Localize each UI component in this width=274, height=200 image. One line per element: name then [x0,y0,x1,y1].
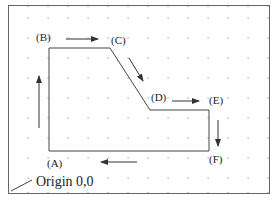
grid-dot [268,158,269,159]
arrow-down-c-to-d-icon [129,58,143,81]
grid-dot [68,58,69,59]
point-label-a: (A) [47,157,63,170]
grid-dot [188,18,189,19]
grid-dot [28,158,29,159]
grid-dot [208,58,209,59]
grid-dot [148,78,149,79]
grid-dot [68,118,69,119]
grid-dot [108,178,109,179]
grid-dot [268,138,269,139]
grid-dot [268,118,269,119]
grid-dot [228,58,229,59]
grid-dot [188,78,189,79]
grid-dot [188,138,189,139]
grid-dot [228,18,229,19]
grid-dot [248,138,249,139]
grid-dot [248,58,249,59]
grid-dot [188,38,189,39]
grid-dot [268,18,269,19]
grid-dot [168,138,169,139]
grid-dot [188,158,189,159]
grid-dot [208,178,209,179]
grid-dot [228,78,229,79]
grid-dot [28,38,29,39]
grid-dot [228,138,229,139]
grid-dot [208,18,209,19]
grid-dot [148,118,149,119]
grid-dot [268,38,269,39]
grid-dot [108,118,109,119]
grid-dot [268,78,269,79]
grid-dot [208,38,209,39]
grid-dot [68,98,69,99]
grid-dot [28,78,29,79]
grid-dot [148,18,149,19]
grid-dot [28,138,29,139]
grid-dot [128,158,129,159]
grid-dot [248,78,249,79]
origin-leader-line [11,180,32,191]
toolpath-outline [49,48,209,151]
grid-dot [108,58,109,59]
grid-dot [148,38,149,39]
grid-dot [128,58,129,59]
grid-dot [148,178,149,179]
grid-dot [108,78,109,79]
grid-dot [248,98,249,99]
toolpath-diagram: (A)(B)(C)(D)(E)(F) Origin 0,0 [0,0,274,200]
grid-dot [108,98,109,99]
point-label-f: (F) [209,153,223,166]
grid-dot [108,138,109,139]
grid-dot [148,98,149,99]
grid-dot [168,158,169,159]
grid-dot [68,158,69,159]
grid-dot [88,18,89,19]
grid-dot [28,118,29,119]
grid-dot [248,38,249,39]
grid-dot [188,118,189,119]
grid-dot [108,158,109,159]
grid-dot [228,178,229,179]
grid-dot [128,138,129,139]
grid-dot [248,178,249,179]
grid-dot [248,18,249,19]
grid-dot [188,178,189,179]
grid-dot [248,158,249,159]
grid-dot [108,38,109,39]
grid-dot [168,98,169,99]
point-label-d: (D) [151,91,167,104]
grid-dot [188,98,189,99]
grid-dot [128,98,129,99]
grid-dot [28,18,29,19]
grid-dot [228,118,229,119]
grid-dot [168,178,169,179]
grid-dot [228,158,229,159]
direction-arrows [39,39,218,162]
grid-dot [148,158,149,159]
grid-dot [168,18,169,19]
grid-dot [268,98,269,99]
grid-dot [128,178,129,179]
grid-dot [248,118,249,119]
point-label-b: (B) [36,31,51,44]
grid-dot [268,58,269,59]
grid-dot [228,98,229,99]
grid-dot [168,58,169,59]
grid-dot [208,78,209,79]
grid-dot [148,138,149,139]
grid-dot [108,18,109,19]
grid-dot [188,58,189,59]
grid-dot [68,138,69,139]
grid-dot [128,118,129,119]
grid-dot [128,78,129,79]
diagram-canvas: (A)(B)(C)(D)(E)(F) Origin 0,0 [0,0,274,200]
grid-dot [88,58,89,59]
grid-dot [48,18,49,19]
grid-dot [168,78,169,79]
grid-dot [88,138,89,139]
origin-label: Origin 0,0 [36,174,94,189]
grid-dot [128,18,129,19]
grid-dots [28,5,269,194]
grid-dot [168,38,169,39]
grid-dot [28,58,29,59]
